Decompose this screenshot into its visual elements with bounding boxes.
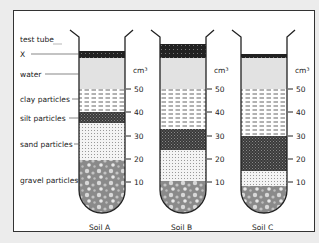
svg-text:cm³: cm³ xyxy=(214,66,228,75)
label-test-tube: test tube xyxy=(20,35,54,44)
layer-gravel xyxy=(79,160,125,220)
svg-text:50: 50 xyxy=(296,85,306,94)
label-clay: clay particles xyxy=(20,95,70,104)
soil-sedimentation-diagram: cm³ 50 40 30 20 10 Soil A cm³ 50 40 30 2… xyxy=(0,0,319,243)
layer-x xyxy=(160,44,206,58)
tube-c-label: Soil C xyxy=(252,223,273,232)
tube-a-label: Soil A xyxy=(89,223,111,232)
layer-silt xyxy=(241,136,287,171)
layer-gravel xyxy=(160,181,206,221)
svg-text:40: 40 xyxy=(134,108,144,117)
layer-water xyxy=(241,58,287,89)
tube-soil-c: cm³ 50 40 30 20 10 Soil C xyxy=(232,30,309,232)
layer-silt xyxy=(79,112,125,123)
svg-text:30: 30 xyxy=(296,132,306,141)
layer-water xyxy=(79,58,125,89)
layer-clay xyxy=(79,89,125,112)
label-silt: silt particles xyxy=(20,114,66,123)
tube-b-label: Soil B xyxy=(171,223,192,232)
svg-text:10: 10 xyxy=(215,178,225,187)
svg-text:20: 20 xyxy=(134,155,144,164)
label-x: X xyxy=(20,50,25,59)
svg-text:50: 50 xyxy=(215,85,225,94)
layer-gravel xyxy=(241,186,287,221)
layer-sand xyxy=(79,123,125,160)
scale-b: cm³ 50 40 30 20 10 xyxy=(207,66,228,187)
tube-soil-a: cm³ 50 40 30 20 10 Soil A xyxy=(70,30,147,232)
layer-sand xyxy=(160,150,206,181)
layer-x xyxy=(241,54,287,58)
label-gravel: gravel particles xyxy=(20,176,78,185)
svg-text:10: 10 xyxy=(296,178,306,187)
svg-text:30: 30 xyxy=(215,132,225,141)
layer-water xyxy=(160,58,206,89)
label-sand: sand particles xyxy=(20,140,73,149)
scale-a: cm³ 50 40 30 20 10 xyxy=(126,66,147,187)
layer-labels: test tube X water clay particles silt pa… xyxy=(20,35,79,185)
layer-clay xyxy=(241,89,287,136)
svg-text:10: 10 xyxy=(134,178,144,187)
layer-clay xyxy=(160,89,206,129)
svg-text:20: 20 xyxy=(215,155,225,164)
svg-text:40: 40 xyxy=(215,108,225,117)
svg-text:cm³: cm³ xyxy=(295,66,309,75)
layer-x xyxy=(79,51,125,58)
svg-text:30: 30 xyxy=(134,132,144,141)
layer-sand xyxy=(241,171,287,186)
scale-c: cm³ 50 40 30 20 10 xyxy=(288,66,309,187)
tube-soil-b: cm³ 50 40 30 20 10 Soil B xyxy=(151,30,228,232)
svg-text:50: 50 xyxy=(134,85,144,94)
label-water: water xyxy=(20,70,42,79)
svg-text:cm³: cm³ xyxy=(133,66,147,75)
svg-text:20: 20 xyxy=(296,155,306,164)
svg-text:40: 40 xyxy=(296,108,306,117)
layer-silt xyxy=(160,129,206,150)
